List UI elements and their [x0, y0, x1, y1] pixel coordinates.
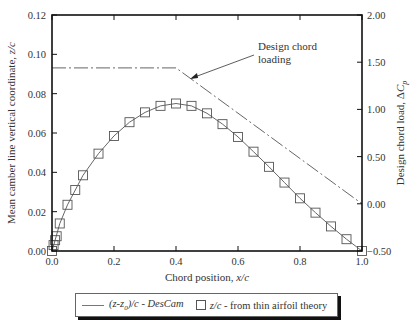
y2-tick-label: −0.50	[367, 246, 391, 257]
x-tick-label: 0.4	[169, 256, 183, 267]
y2-tick-label: 1.50	[367, 57, 385, 68]
square-marker-icon	[196, 300, 206, 310]
descam-line	[52, 104, 362, 252]
y2-tick-label: 2.00	[367, 10, 385, 21]
camber-line-chart: 0.00.20.40.60.81.00.000.020.040.060.080.…	[0, 0, 419, 331]
annotation-label-line1: Design chord	[258, 40, 317, 52]
x-tick-label: 0.8	[293, 256, 306, 267]
annotation-label-line2: loading	[258, 53, 291, 65]
plot-series	[48, 68, 367, 256]
annotation-arrow	[192, 55, 254, 78]
y-tick-label: 0.02	[28, 207, 46, 218]
x-tick-label: 0.2	[107, 256, 120, 267]
x-tick-label: 0.0	[45, 256, 58, 267]
y-tick-label: 0.04	[28, 167, 47, 178]
y2-tick-label: 0.50	[367, 152, 385, 163]
solid-line-icon	[82, 305, 104, 306]
axis-ticks: 0.00.20.40.60.81.00.000.020.040.060.080.…	[28, 10, 392, 267]
y-tick-label: 0.00	[28, 246, 46, 257]
x-tick-label: 0.6	[231, 256, 244, 267]
y-tick-label: 0.08	[28, 89, 46, 100]
y-axis-label: Mean camber line vertical coordinate, z/…	[5, 42, 17, 224]
y2-tick-label: 0.00	[367, 199, 385, 210]
y-tick-label: 0.06	[28, 128, 46, 139]
arrowhead-icon	[190, 73, 198, 79]
x-tick-label: 1.0	[355, 256, 368, 267]
legend-item-descam: (z-z0)/c - DesCam	[109, 298, 184, 312]
y-tick-label: 0.10	[28, 49, 46, 60]
design-load-line	[52, 68, 362, 204]
y2-tick-label: 1.00	[367, 104, 385, 115]
legend-item-thin-airfoil: z/c - from thin airfoil theory	[210, 300, 328, 311]
y2-axis-label: Design chord load, ΔCp	[394, 81, 409, 186]
chart-legend: (z-z0)/c - DesCam z/c - from thin airfoi…	[75, 293, 338, 317]
y-tick-label: 0.12	[28, 10, 46, 21]
x-axis-label: Chord position, x/c	[165, 271, 249, 283]
